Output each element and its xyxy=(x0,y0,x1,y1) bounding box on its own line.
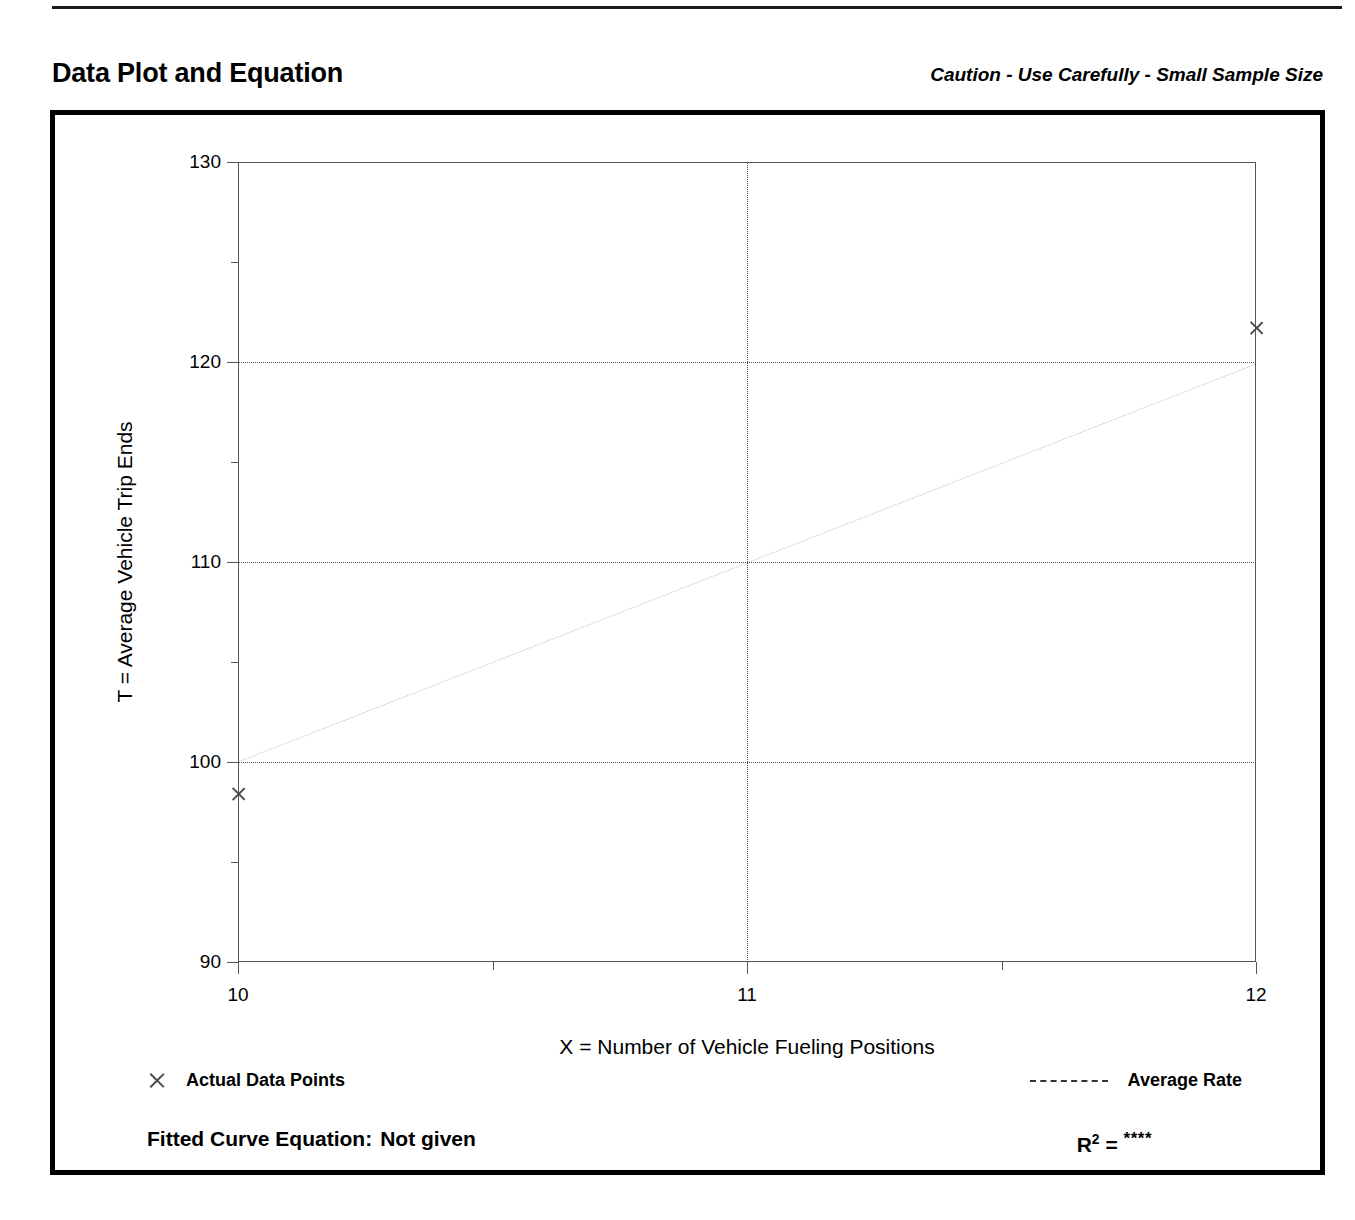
y-tick-label-90: 90 xyxy=(200,951,221,973)
page-top-rule xyxy=(52,6,1342,9)
y-tick-100 xyxy=(227,762,238,763)
chart-card: T = Average Vehicle Trip Ends 130 120 11… xyxy=(50,110,1325,1175)
chart-footer: Fitted Curve Equation:Not given R2 = ***… xyxy=(55,1127,1320,1167)
fitted-curve-equation-label: Fitted Curve Equation: xyxy=(147,1127,372,1150)
page-title: Data Plot and Equation xyxy=(52,58,343,89)
y-tick-minor-105 xyxy=(231,662,238,663)
data-point-marker xyxy=(1248,320,1265,337)
r-squared-stars: **** xyxy=(1124,1129,1152,1148)
r-squared-exponent: 2 xyxy=(1092,1131,1100,1147)
x-tick-10 xyxy=(238,962,239,974)
y-tick-label-100: 100 xyxy=(189,751,221,773)
y-tick-minor-95 xyxy=(231,862,238,863)
x-tick-label-10: 10 xyxy=(227,984,248,1006)
y-tick-minor-115 xyxy=(231,462,238,463)
x-tick-label-12: 12 xyxy=(1245,984,1266,1006)
x-tick-minor-11-5 xyxy=(1002,962,1003,970)
legend-item-average-rate: Average Rate xyxy=(1030,1070,1242,1091)
x-tick-label-11: 11 xyxy=(737,984,757,1006)
x-axis-title: X = Number of Vehicle Fueling Positions xyxy=(238,1035,1256,1059)
y-axis-title-text: T = Average Vehicle Trip Ends xyxy=(113,421,137,702)
fitted-curve-equation: Fitted Curve Equation:Not given xyxy=(147,1127,476,1151)
r-squared-label: R xyxy=(1077,1133,1092,1156)
fitted-curve-equation-value: Not given xyxy=(380,1127,476,1150)
y-tick-90 xyxy=(227,962,238,963)
x-tick-12 xyxy=(1256,962,1257,974)
chart-legend: Actual Data Points Average Rate xyxy=(55,1070,1320,1104)
y-tick-120 xyxy=(227,362,238,363)
r-squared-equals: = xyxy=(1105,1133,1117,1156)
y-tick-110 xyxy=(227,562,238,563)
r-squared-value: R2 = **** xyxy=(1077,1129,1152,1157)
average-rate-line xyxy=(238,162,1256,962)
x-tick-11 xyxy=(747,962,748,974)
plot-area: 130 120 110 100 90 10 11 12 xyxy=(238,162,1256,962)
data-point-marker xyxy=(230,786,247,803)
legend-item-actual-data-points: Actual Data Points xyxy=(147,1070,345,1091)
y-axis-title: T = Average Vehicle Trip Ends xyxy=(110,162,140,962)
x-tick-minor-10-5 xyxy=(493,962,494,970)
y-tick-label-120: 120 xyxy=(189,351,221,373)
legend-label-actual-data-points: Actual Data Points xyxy=(186,1070,345,1091)
x-marker-icon xyxy=(147,1071,166,1090)
legend-label-average-rate: Average Rate xyxy=(1128,1070,1242,1091)
caution-note: Caution - Use Carefully - Small Sample S… xyxy=(930,64,1323,86)
y-tick-minor-125 xyxy=(231,262,238,263)
y-tick-label-110: 110 xyxy=(191,551,221,573)
chart-header: Data Plot and Equation Caution - Use Car… xyxy=(0,58,1355,104)
y-tick-130 xyxy=(227,162,238,163)
y-tick-label-130: 130 xyxy=(189,151,221,173)
dashed-line-icon xyxy=(1030,1080,1108,1082)
